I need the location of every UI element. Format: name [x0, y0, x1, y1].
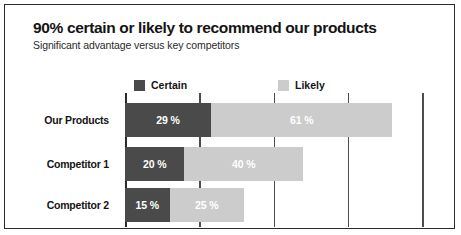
bar-value-label: 25 %	[170, 199, 244, 211]
category-label: Competitor 1	[5, 158, 109, 170]
legend-label-likely: Likely	[295, 79, 325, 91]
chart-card: 90% certain or likely to recommend our p…	[4, 4, 455, 229]
bar-value-label: 40 %	[184, 158, 303, 170]
category-label: Our Products	[5, 114, 109, 126]
legend-swatch-likely	[278, 80, 289, 91]
bar-segment-certain: 15 %	[125, 188, 170, 222]
chart-plot-area: Our Products29 %61 %Competitor 120 %40 %…	[5, 93, 455, 227]
chart-subtitle: Significant advantage versus key competi…	[33, 39, 239, 51]
bar-segment-likely: 25 %	[170, 188, 244, 222]
page-title: 90% certain or likely to recommend our p…	[33, 19, 377, 37]
bar-value-label: 61 %	[211, 114, 392, 126]
legend-label-certain: Certain	[151, 79, 187, 91]
bar-segment-likely: 61 %	[211, 103, 392, 137]
bar-row: Competitor 120 %40 %	[5, 147, 455, 181]
bar-value-label: 15 %	[125, 199, 170, 211]
bar-row: Competitor 215 %25 %	[5, 188, 455, 222]
bar-value-label: 20 %	[125, 158, 184, 170]
legend-swatch-certain	[134, 80, 145, 91]
bar-row: Our Products29 %61 %	[5, 103, 455, 137]
category-label: Competitor 2	[5, 199, 109, 211]
bar-segment-likely: 40 %	[184, 147, 303, 181]
bar-segment-certain: 29 %	[125, 103, 211, 137]
bar-segment-certain: 20 %	[125, 147, 184, 181]
bar-value-label: 29 %	[125, 114, 211, 126]
